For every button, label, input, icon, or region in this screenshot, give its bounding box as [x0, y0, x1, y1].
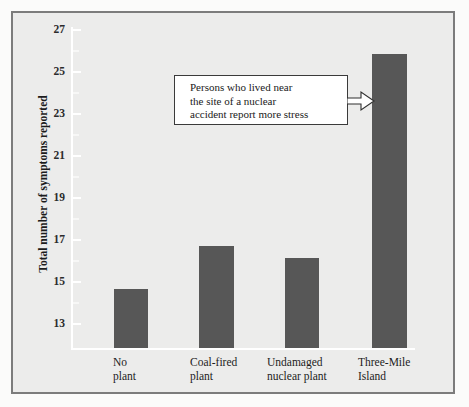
y-tick-23	[73, 113, 81, 115]
x-tick-label-line: Undamaged	[267, 355, 327, 369]
x-tick-label-three-mile-island: Three-Mile Island	[358, 355, 410, 383]
y-tick-minor-14	[73, 302, 79, 304]
bar-three-mile-island	[372, 54, 407, 348]
figure-frame: Total number of symptoms reported 27 25 …	[11, 11, 455, 394]
x-tick-label-line: nuclear plant	[267, 369, 327, 383]
chart-screenshot: Total number of symptoms reported 27 25 …	[0, 0, 469, 407]
plot-area: Total number of symptoms reported 27 25 …	[13, 13, 457, 396]
annotation-arrow-icon	[347, 89, 375, 113]
x-tick-label-line: plant	[190, 369, 237, 383]
x-tick-label-line: plant	[113, 369, 136, 383]
x-tick-label-line: Three-Mile	[358, 355, 410, 369]
annotation-line-3: accident report more stress	[190, 108, 347, 122]
y-tick-label-15: 15	[25, 276, 65, 287]
y-tick-label-21: 21	[25, 150, 65, 161]
bar-undamaged-nuclear-plant	[285, 258, 319, 348]
y-tick-25	[73, 71, 81, 73]
annotation-line-2: the site of a nuclear	[190, 95, 347, 109]
bar-coal-fired-plant	[199, 246, 234, 348]
y-tick-19	[73, 197, 81, 199]
y-tick-15	[73, 281, 81, 283]
y-tick-minor-20	[73, 176, 79, 178]
annotation-line-1: Persons who lived near	[190, 81, 347, 95]
y-tick-label-23: 23	[25, 108, 65, 119]
y-tick-21	[73, 155, 81, 157]
y-tick-minor-22	[73, 134, 79, 136]
y-tick-13	[73, 323, 81, 325]
x-axis-line	[71, 348, 415, 350]
annotation-callout-box: Persons who lived near the site of a nuc…	[174, 75, 348, 125]
y-axis-title: Total number of symptoms reported	[37, 74, 49, 294]
x-tick-label-line: Coal-fired	[190, 355, 237, 369]
y-tick-label-27: 27	[25, 24, 65, 35]
y-tick-17	[73, 239, 81, 241]
y-tick-27	[73, 29, 81, 31]
y-tick-minor-16	[73, 260, 79, 262]
x-tick-label-undamaged-nuclear-plant: Undamaged nuclear plant	[267, 355, 327, 383]
y-tick-label-13: 13	[25, 318, 65, 329]
bar-no-plant	[114, 289, 148, 348]
x-tick-label-coal-fired-plant: Coal-fired plant	[190, 355, 237, 383]
x-tick-label-no-plant: No plant	[113, 355, 136, 383]
x-tick-label-line: Island	[358, 369, 410, 383]
y-tick-minor-24	[73, 92, 79, 94]
y-tick-label-25: 25	[25, 66, 65, 77]
y-tick-minor-26	[73, 50, 79, 52]
y-tick-label-17: 17	[25, 234, 65, 245]
y-tick-label-19: 19	[25, 192, 65, 203]
y-tick-minor-18	[73, 218, 79, 220]
x-tick-label-line: No	[113, 355, 136, 369]
